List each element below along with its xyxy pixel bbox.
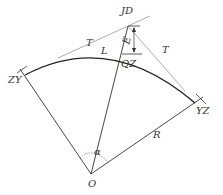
label-alpha: α — [94, 146, 101, 157]
arrow-down-icon — [132, 48, 136, 53]
label-o: O — [88, 178, 96, 189]
label-t-right: T — [162, 44, 170, 55]
label-t-left: T — [86, 37, 94, 48]
yz-end-tick — [196, 94, 206, 104]
label-e: E — [120, 35, 133, 47]
curve-diagram: JD QZ ZY YZ O T T L R α E — [0, 0, 223, 195]
label-zy: ZY — [7, 74, 23, 85]
tangent-line-right — [128, 26, 185, 91]
label-r: R — [152, 129, 161, 140]
arrow-up-icon — [132, 27, 136, 32]
label-qz: QZ — [121, 58, 137, 69]
label-yz: YZ — [196, 105, 211, 116]
label-l: L — [100, 45, 108, 56]
label-jd: JD — [119, 5, 133, 16]
radius-line-zy — [20, 69, 91, 174]
